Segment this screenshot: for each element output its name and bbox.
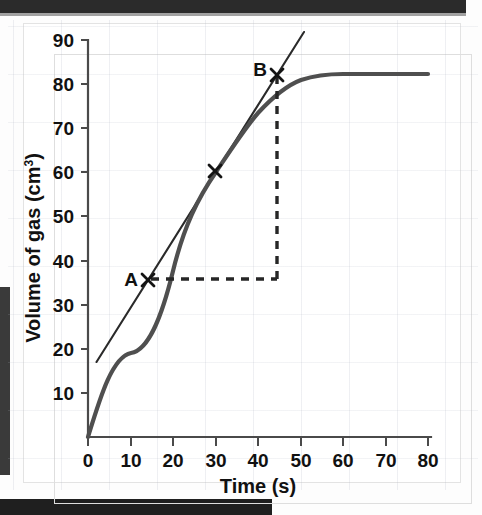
axes-group (88, 40, 431, 437)
x-tick-label-60: 60 (332, 450, 353, 471)
svg-text:Volume of gas (cm3): Volume of gas (cm3) (22, 153, 44, 343)
y-tick-label-90: 90 (53, 30, 74, 51)
x-tick-label-0: 0 (83, 450, 94, 471)
gas-volume-chart: 90 80 70 60 50 40 30 20 10 0 10 20 30 40… (0, 0, 482, 515)
x-tick-label-40: 40 (247, 450, 268, 471)
marker-label-b: B (253, 59, 267, 80)
y-tick-label-40: 40 (53, 251, 74, 272)
y-tick-label-80: 80 (53, 74, 74, 95)
x-tick-label-30: 30 (205, 450, 226, 471)
y-axis-tick-labels: 90 80 70 60 50 40 30 20 10 (53, 30, 74, 404)
y-tick-label-60: 60 (53, 162, 74, 183)
y-axis-title-close: ) (22, 153, 44, 160)
x-axis-title: Time (s) (220, 475, 296, 497)
x-axis-ticks (88, 437, 428, 446)
x-tick-label-20: 20 (162, 450, 183, 471)
x-tick-label-80: 80 (417, 450, 438, 471)
y-axis-title: Volume of gas (cm3) (22, 153, 44, 343)
y-tick-label-50: 50 (53, 206, 74, 227)
x-tick-label-70: 70 (375, 450, 396, 471)
volume-curve (88, 74, 428, 437)
marker-label-a: A (124, 269, 138, 290)
y-tick-label-70: 70 (53, 118, 74, 139)
y-axis-title-base: Volume of gas (cm (22, 167, 44, 343)
x-tick-label-50: 50 (290, 450, 311, 471)
x-tick-label-10: 10 (120, 450, 141, 471)
y-tick-label-30: 30 (53, 295, 74, 316)
y-tick-label-10: 10 (53, 383, 74, 404)
x-axis-tick-labels: 0 10 20 30 40 50 60 70 80 (83, 450, 439, 471)
y-tick-label-20: 20 (53, 339, 74, 360)
